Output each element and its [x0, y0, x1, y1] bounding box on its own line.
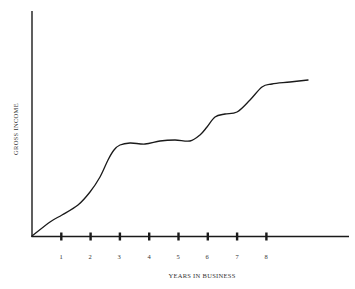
x-tick-label-8: 8: [264, 253, 267, 260]
x-tick-4: [148, 233, 150, 241]
x-tick-8: [265, 233, 267, 241]
x-tick-2: [89, 233, 91, 241]
x-tick-3: [119, 233, 121, 241]
x-tick-1: [60, 233, 62, 241]
x-tick-5: [177, 233, 179, 241]
x-tick-label-7: 7: [235, 253, 238, 260]
x-tick-label-4: 4: [147, 253, 150, 260]
y-axis-label: GROSS INCOME: [12, 103, 19, 155]
x-tick-label-3: 3: [117, 253, 120, 260]
x-tick-label-1: 1: [59, 253, 62, 260]
line-chart: [0, 0, 355, 289]
x-tick-label-6: 6: [205, 253, 208, 260]
x-tick-7: [236, 233, 238, 241]
gross-income-line: [32, 80, 308, 236]
x-tick-label-2: 2: [88, 253, 91, 260]
x-axis-label: YEARS IN BUSINESS: [168, 272, 235, 279]
x-tick-6: [207, 233, 209, 241]
x-tick-label-5: 5: [176, 253, 179, 260]
